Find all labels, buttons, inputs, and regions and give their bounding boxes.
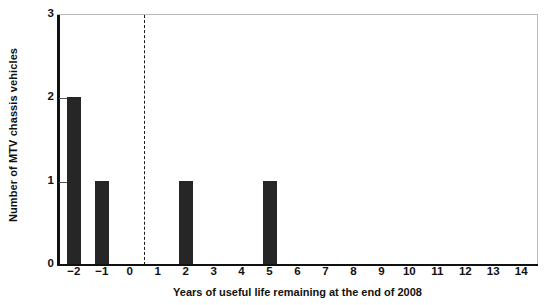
x-tick-label: 12	[450, 266, 480, 278]
x-tick-label: 1	[143, 266, 173, 278]
x-tick-label: 14	[506, 266, 536, 278]
bar	[263, 181, 277, 264]
x-tick-label: 10	[394, 266, 424, 278]
x-tick-label: 2	[171, 266, 201, 278]
x-tick-label: 11	[422, 266, 452, 278]
x-tick-label: 0	[115, 266, 145, 278]
x-tick-label: −1	[87, 266, 117, 278]
x-tick-label: 3	[199, 266, 229, 278]
x-tick-label: 7	[310, 266, 340, 278]
y-tick-label: 3	[32, 8, 54, 20]
y-tick-label: 1	[32, 175, 54, 187]
x-axis-tick-labels: −2−101234567891011121314	[57, 266, 538, 284]
x-tick-label: 6	[283, 266, 313, 278]
bar-chart: Number of MTV chassis vehicles 0123 −2−1…	[0, 0, 551, 305]
y-tick-label: 2	[32, 91, 54, 103]
bar	[179, 181, 193, 264]
bar	[95, 181, 109, 264]
x-tick-label: −2	[59, 266, 89, 278]
y-axis-tick-labels: 0123	[28, 0, 54, 305]
x-tick-label: 4	[227, 266, 257, 278]
zero-divider-line	[144, 15, 145, 265]
plot-area	[57, 14, 538, 264]
x-tick-label: 5	[255, 266, 285, 278]
y-axis-title-text: Number of MTV chassis vehicles	[7, 48, 19, 222]
bar	[67, 97, 81, 264]
y-tick-label: 0	[32, 258, 54, 270]
y-axis-title: Number of MTV chassis vehicles	[0, 0, 26, 270]
y-axis-line	[57, 15, 60, 265]
x-tick-label: 9	[366, 266, 396, 278]
x-axis-title: Years of useful life remaining at the en…	[57, 286, 538, 298]
x-tick-label: 8	[338, 266, 368, 278]
x-tick-label: 13	[478, 266, 508, 278]
